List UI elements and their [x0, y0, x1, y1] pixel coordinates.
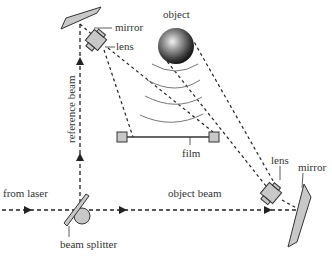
label-object: object: [163, 9, 190, 20]
label-mirror-right: mirror: [298, 162, 326, 173]
mirror-right: [288, 184, 311, 247]
film-holder-left: [117, 132, 127, 142]
laser-beam: [2, 206, 82, 214]
label-reference-beam: reference beam: [66, 76, 77, 143]
diverging-reference-beams: [104, 48, 213, 137]
mirror-top-left: [61, 7, 101, 29]
beam-splitter: [64, 194, 90, 237]
object-illumination-beams: [162, 40, 300, 210]
lens-top: [83, 27, 109, 53]
arrow-right-icon: [264, 206, 272, 214]
label-from-laser: from laser: [3, 188, 48, 199]
film-holder-right: [209, 132, 219, 142]
label-mirror-top: mirror: [115, 22, 143, 33]
arrow-right-icon: [119, 206, 127, 214]
arrow-up-icon: [76, 153, 84, 161]
label-lens-right: lens: [271, 155, 289, 166]
film: [117, 132, 219, 145]
holography-setup-diagram: [0, 0, 332, 263]
label-film: film: [182, 148, 200, 159]
mirror-right-leader: [302, 173, 303, 188]
label-object-beam: object beam: [168, 188, 221, 199]
arrow-right-icon: [24, 206, 32, 214]
arrow-up-icon: [76, 57, 84, 65]
label-beam-splitter: beam splitter: [60, 239, 117, 250]
wavefronts: [140, 64, 203, 122]
lens-right: [258, 180, 284, 206]
object-sphere: [158, 28, 194, 64]
label-lens-top: lens: [116, 41, 134, 52]
object-beam: [82, 206, 300, 214]
reference-beam: [76, 22, 84, 210]
